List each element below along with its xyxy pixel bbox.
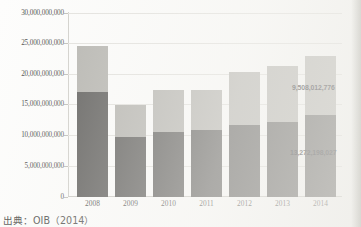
- x-axis-labels: 2008 2009 2010 2011 2012 2013 2014: [68, 199, 342, 213]
- x-tick-label-2009: 2009: [123, 199, 138, 208]
- y-tick-label-20b: 20,000,000,000: [21, 70, 64, 78]
- bar-2012-lower: [229, 125, 260, 197]
- bar-2012[interactable]: [229, 72, 260, 197]
- y-tick-label-5b: 5,000,000,000: [25, 162, 64, 170]
- bar-2011[interactable]: [191, 90, 222, 197]
- y-axis-labels: 30,000,000,000 25,000,000,000 20,000,000…: [0, 12, 64, 197]
- x-tick-label-2013: 2013: [275, 199, 290, 208]
- bar-2011-upper: [191, 90, 222, 131]
- x-tick-label-2014: 2014: [313, 199, 328, 208]
- bar-2014-lower: [305, 115, 336, 197]
- source-caption: 出典：OIB（2014）: [3, 213, 94, 227]
- bar-2010[interactable]: [153, 90, 184, 197]
- bar-2014[interactable]: [305, 56, 336, 197]
- data-label-2014-upper: 9,508,012,776: [292, 84, 335, 91]
- bar-2012-upper: [229, 72, 260, 125]
- data-label-2014-lower: 13,272,198,027: [290, 149, 337, 156]
- bar-2013-lower: [267, 122, 298, 197]
- bar-2011-lower: [191, 130, 222, 197]
- y-tick-label-30b: 30,000,000,000: [21, 9, 64, 17]
- bar-2009-upper: [115, 105, 146, 137]
- bar-series-group: [68, 12, 342, 197]
- x-tick-label-2010: 2010: [161, 199, 176, 208]
- bar-2013-upper: [267, 66, 298, 122]
- bar-2008-lower: [77, 92, 108, 197]
- chart-page: 30,000,000,000 25,000,000,000 20,000,000…: [0, 0, 361, 227]
- bar-2008[interactable]: [77, 46, 108, 197]
- bar-2010-upper: [153, 90, 184, 132]
- x-tick-label-2008: 2008: [85, 199, 100, 208]
- y-tick-label-15b: 15,000,000,000: [21, 100, 64, 108]
- y-tick-label-25b: 25,000,000,000: [21, 39, 64, 47]
- bar-2008-upper: [77, 46, 108, 92]
- y-tick-label-10b: 10,000,000,000: [21, 131, 64, 139]
- bar-2010-lower: [153, 132, 184, 197]
- x-tick-label-2011: 2011: [199, 199, 214, 208]
- bar-2009-lower: [115, 137, 146, 198]
- x-tick-label-2012: 2012: [237, 199, 252, 208]
- bar-2009[interactable]: [115, 105, 146, 197]
- y-tick-label-0: 0: [61, 193, 64, 201]
